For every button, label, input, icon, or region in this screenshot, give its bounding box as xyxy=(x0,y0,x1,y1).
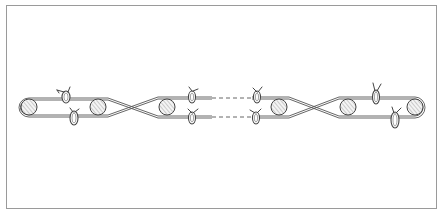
figure-frame xyxy=(7,6,437,209)
clip-icon xyxy=(373,83,382,104)
clip-icon xyxy=(188,109,198,124)
rollers xyxy=(21,99,423,115)
band-roller-diagram xyxy=(0,0,446,218)
roller-6 xyxy=(407,99,423,115)
roller-5 xyxy=(340,99,356,115)
roller-1 xyxy=(21,99,37,115)
roller-3 xyxy=(159,99,175,115)
band xyxy=(19,97,425,118)
roller-4 xyxy=(271,99,287,115)
clip-icon xyxy=(57,87,70,103)
clip-icon xyxy=(70,108,79,125)
roller-2 xyxy=(90,99,106,115)
clip-icon xyxy=(250,109,261,124)
clip-icon xyxy=(391,107,401,128)
clip-icon xyxy=(189,87,199,103)
clip-icon xyxy=(253,87,262,103)
